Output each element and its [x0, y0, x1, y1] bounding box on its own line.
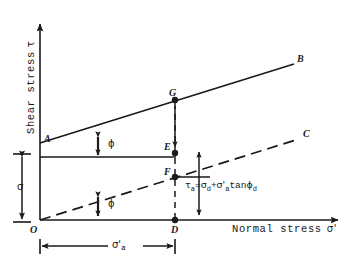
formula-phi-sub: d	[253, 185, 257, 193]
inner-arrows	[175, 106, 210, 215]
point-label-B: B	[297, 54, 304, 64]
point-label-E: E	[164, 142, 171, 152]
point-label-G: G	[169, 88, 176, 98]
angle-label-phi-at-a: ϕ	[108, 139, 115, 149]
line-envelope-peak	[40, 64, 294, 143]
dimension-label-sigma: σ	[17, 182, 23, 192]
y-axis-title-text: Shear stress	[25, 51, 37, 134]
x-axis-title: Normal stressσ'	[232, 224, 337, 235]
dimension-sigma-a-symbol: σ'	[112, 239, 121, 250]
x-axis-symbol: σ'	[327, 223, 337, 234]
dimension-sigma-a-horizontal	[40, 239, 175, 254]
dimension-label-sigma-a-prime: σ'a	[112, 240, 126, 252]
formula-sigma-a: σ'	[217, 179, 226, 190]
point-label-O: O	[30, 225, 37, 235]
point-label-F: F	[164, 167, 171, 177]
point-marker-E	[172, 150, 178, 156]
formula-tau-a: τa=σd+σ'atanϕd	[185, 180, 257, 193]
x-axis-title-text: Normal stress	[232, 223, 322, 235]
shear-strength-envelope-figure: Shear stressτ Normal stressσ' O A B C D …	[0, 0, 352, 268]
point-label-D: D	[171, 225, 178, 235]
formula-tan: tan	[229, 180, 246, 191]
point-marker-D	[172, 217, 178, 223]
y-axis-title: Shear stressτ	[26, 41, 37, 134]
dimension-sigma-a-subscript: a	[121, 243, 126, 252]
point-label-A: A	[44, 134, 51, 144]
y-axis-symbol: τ	[25, 41, 36, 48]
angle-label-phi-at-o: ϕ	[108, 199, 115, 209]
point-label-C: C	[303, 129, 310, 139]
